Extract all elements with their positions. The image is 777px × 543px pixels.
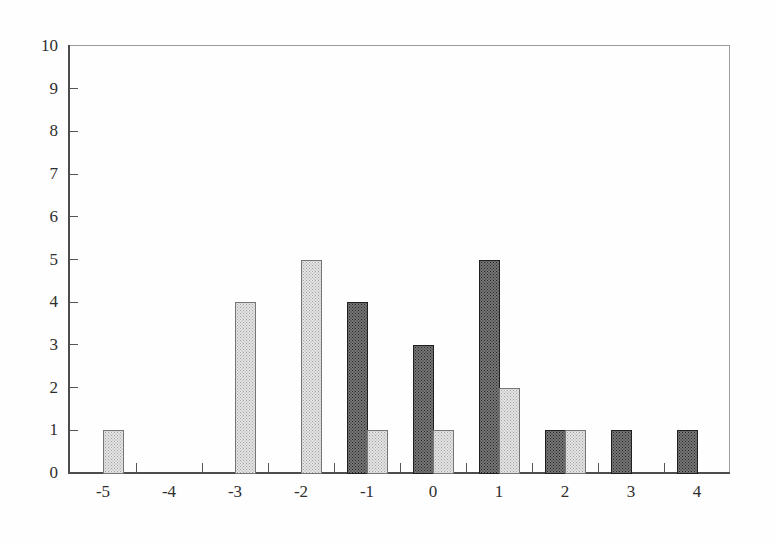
y-axis-tick-label: 8 [12, 121, 58, 141]
bar-light-series-x-2 [301, 260, 322, 475]
x-axis-tick-label: 2 [542, 482, 588, 502]
bar-light-series-x2 [565, 430, 586, 474]
x-axis-tick [664, 463, 665, 473]
x-axis-tick [202, 463, 203, 473]
x-axis-tick [466, 463, 467, 473]
x-axis-tick-label: -1 [344, 482, 390, 502]
x-axis-tick [268, 463, 269, 473]
bar-light-series-x1 [499, 388, 520, 474]
bar-light-series-x-1 [367, 430, 388, 474]
y-axis-tick [70, 387, 78, 388]
x-axis-tick-label: 1 [476, 482, 522, 502]
y-axis-tick-label: 2 [12, 378, 58, 398]
bar-dark-series-x1 [479, 260, 500, 475]
x-axis-tick [334, 463, 335, 473]
x-axis-tick-label: -5 [80, 482, 126, 502]
y-axis-tick [70, 174, 78, 175]
y-axis-tick-label: 7 [12, 164, 58, 184]
x-axis-tick-label: -3 [212, 482, 258, 502]
y-axis-tick-label: 10 [12, 36, 58, 56]
histogram-chart: 012345678910-5-4-3-2-101234 [0, 0, 777, 543]
x-axis-tick [400, 463, 401, 473]
y-axis-tick [70, 216, 78, 217]
y-axis-tick-label: 0 [12, 463, 58, 483]
y-axis-tick [70, 131, 78, 132]
y-axis-tick-label: 9 [12, 79, 58, 99]
x-axis-tick [598, 463, 599, 473]
x-axis-tick-label: 0 [410, 482, 456, 502]
bar-dark-series-x2 [545, 430, 566, 474]
bar-dark-series-x0 [413, 345, 434, 474]
x-axis-tick-label: -4 [146, 482, 192, 502]
y-axis-tick-label: 4 [12, 292, 58, 312]
plot-frame-right [729, 45, 730, 473]
bar-dark-series-x-1 [347, 302, 368, 474]
y-axis-tick-label: 6 [12, 207, 58, 227]
y-axis-tick [70, 430, 78, 431]
y-axis-tick-label: 1 [12, 420, 58, 440]
bar-light-series-x-3 [235, 302, 256, 474]
y-axis-tick [70, 259, 78, 260]
y-axis-tick [70, 302, 78, 303]
x-axis-tick [532, 463, 533, 473]
y-axis-tick [70, 88, 78, 89]
y-axis-tick-label: 5 [12, 250, 58, 270]
bar-dark-series-x4 [677, 430, 698, 474]
bar-light-series-x-5 [103, 430, 124, 474]
x-axis-tick-label: -2 [278, 482, 324, 502]
x-axis-tick-label: 3 [608, 482, 654, 502]
bar-light-series-x0 [433, 430, 454, 474]
y-axis-tick-label: 3 [12, 335, 58, 355]
plot-frame-top [70, 45, 730, 46]
y-axis-tick [70, 344, 78, 345]
bar-dark-series-x3 [611, 430, 632, 474]
x-axis-tick [136, 463, 137, 473]
x-axis-tick-label: 4 [674, 482, 720, 502]
